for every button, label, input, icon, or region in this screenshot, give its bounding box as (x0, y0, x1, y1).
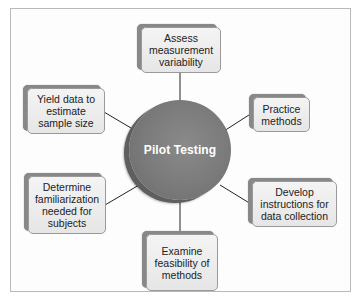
center-label: Pilot Testing (144, 143, 216, 157)
node-assess-measurement-variability: Assess measurement variability (141, 27, 221, 73)
node-develop-instructions: Develop instructions for data collection (252, 181, 337, 227)
node-determine-familiarization: Determine familiarization needed for sub… (28, 176, 106, 234)
node-yield-data-sample-size: Yield data to estimate sample size (27, 88, 105, 134)
center-node-pilot-testing: Pilot Testing (129, 100, 231, 200)
node-examine-feasibility: Examine feasibility of methods (146, 234, 218, 291)
node-practice-methods: Practice methods (253, 97, 310, 132)
